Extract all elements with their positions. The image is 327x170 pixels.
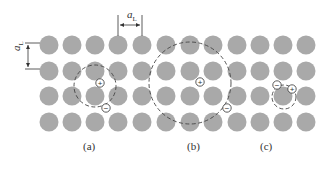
lattice-atom bbox=[204, 62, 223, 81]
arrow-icon bbox=[26, 45, 30, 49]
lattice-atom bbox=[181, 36, 200, 55]
lattice-atom bbox=[157, 36, 176, 55]
lattice-atom bbox=[181, 62, 200, 81]
lattice-atom bbox=[297, 113, 316, 132]
lattice-atom bbox=[109, 62, 128, 81]
svg-text:+: + bbox=[290, 85, 295, 94]
lattice-atom bbox=[204, 113, 223, 132]
lattice-diagram: +−+−+− bbox=[0, 0, 327, 170]
lattice-atom bbox=[86, 113, 105, 132]
lattice-atom bbox=[133, 36, 152, 55]
lattice-atom bbox=[133, 113, 152, 132]
lattice-atom bbox=[40, 62, 59, 81]
lattice-atom bbox=[63, 62, 82, 81]
lattice-atom bbox=[251, 113, 270, 132]
lattice-atom bbox=[40, 87, 59, 106]
lattice-atom bbox=[274, 36, 293, 55]
lattice-atom bbox=[274, 113, 293, 132]
lattice-atom bbox=[251, 36, 270, 55]
lattice-atom bbox=[251, 87, 270, 106]
lattice-atom bbox=[297, 62, 316, 81]
lattice-atom bbox=[86, 87, 105, 106]
lattice-atom bbox=[109, 36, 128, 55]
svg-text:+: + bbox=[198, 78, 203, 87]
lattice-atom bbox=[297, 36, 316, 55]
svg-text:+: + bbox=[98, 79, 103, 88]
lattice-atom bbox=[133, 87, 152, 106]
arrow-icon bbox=[120, 23, 124, 27]
panel-label-a: (a) bbox=[83, 140, 95, 152]
lattice-atom bbox=[109, 87, 128, 106]
lattice-atom bbox=[251, 62, 270, 81]
lattice-atom bbox=[157, 87, 176, 106]
lattice-atom bbox=[228, 62, 247, 81]
lattice-atom bbox=[228, 87, 247, 106]
lattice-atom bbox=[157, 113, 176, 132]
lattice-atom bbox=[228, 113, 247, 132]
lattice-atom bbox=[181, 87, 200, 106]
lattice-atom bbox=[274, 62, 293, 81]
lattice-atom bbox=[157, 62, 176, 81]
lattice-atom bbox=[63, 87, 82, 106]
lattice-atom bbox=[109, 113, 128, 132]
lattice-atom bbox=[63, 36, 82, 55]
lattice-atom bbox=[181, 113, 200, 132]
lattice-atom bbox=[40, 36, 59, 55]
lattice-atom bbox=[86, 62, 105, 81]
panel-label-c: (c) bbox=[260, 140, 272, 152]
lattice-atom bbox=[133, 62, 152, 81]
lattice-atom bbox=[297, 87, 316, 106]
svg-text:−: − bbox=[275, 81, 280, 90]
lattice-atom bbox=[228, 36, 247, 55]
panel-label-b: (b) bbox=[187, 140, 200, 152]
lattice-atom bbox=[204, 87, 223, 106]
arrow-icon bbox=[136, 23, 140, 27]
lattice-atom bbox=[63, 113, 82, 132]
svg-text:−: − bbox=[225, 104, 230, 113]
svg-text:−: − bbox=[104, 104, 109, 113]
vertical-spacing-label: aL bbox=[10, 41, 25, 51]
horizontal-spacing-label: aL bbox=[127, 8, 137, 23]
lattice-atom bbox=[86, 36, 105, 55]
lattice-atom bbox=[40, 113, 59, 132]
arrow-icon bbox=[26, 63, 30, 67]
